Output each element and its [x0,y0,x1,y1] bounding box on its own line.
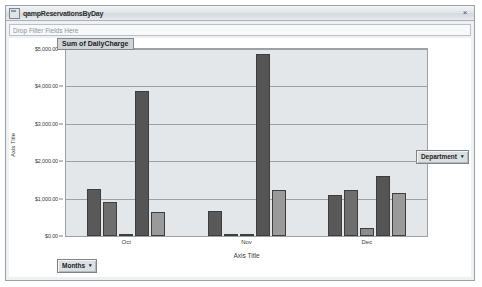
bar[interactable] [392,193,406,236]
bar[interactable] [272,190,286,236]
x-axis-tick-label: Oct [121,239,130,245]
x-axis-tick-label: Nov [241,239,252,245]
window-titlebar[interactable]: qampReservationsByDay × [6,6,474,21]
bars-layer [66,49,427,236]
y-axis-tick-labels: $5,000.00$4,000.00$3,000.00$2,000.00$1,0… [9,48,63,237]
y-axis-tick-mark [59,161,63,162]
field-button-department[interactable]: Department ▾ [416,150,469,164]
y-axis-tick-label: $0.00 [45,233,58,239]
bar[interactable] [87,189,101,236]
chevron-down-icon: ▾ [89,263,92,268]
y-axis-tick-label: $1,000.00 [35,196,58,202]
y-axis-tick-label: $5,000.00 [35,46,58,52]
plot-area [65,48,428,237]
y-axis-tick-mark [59,198,63,199]
bar[interactable] [119,234,133,236]
bar[interactable] [376,176,390,236]
window-title: qampReservationsByDay [23,10,103,17]
x-axis-tick-label: Dec [361,239,372,245]
y-axis-tick-label: $4,000.00 [35,83,58,89]
x-axis-title: Axis Title [65,252,428,259]
chevron-down-icon: ▾ [461,154,464,159]
bar[interactable] [256,54,270,237]
filter-drop-zone-label: Drop Filter Fields Here [10,27,78,34]
pivotchart-window: qampReservationsByDay × Drop Filter Fiel… [5,5,475,281]
series-title-box[interactable]: Sum of DailyCharge [57,38,134,50]
x-axis-tick-labels: OctNovDec [65,239,428,251]
bar[interactable] [103,202,117,236]
pivotchart-icon [9,8,20,19]
bar[interactable] [360,228,374,236]
close-icon[interactable]: × [460,8,470,17]
field-button-months-label: Months [62,262,85,269]
bar[interactable] [208,211,222,236]
bar[interactable] [328,195,342,236]
field-button-months[interactable]: Months ▾ [57,259,97,273]
bar[interactable] [135,91,149,236]
field-button-department-label: Department [421,153,457,160]
y-axis-tick-label: $2,000.00 [35,158,58,164]
y-axis-tick-label: $3,000.00 [35,121,58,127]
bar[interactable] [344,190,358,236]
filter-drop-zone[interactable]: Drop Filter Fields Here [9,24,471,36]
bar[interactable] [224,234,238,236]
bar[interactable] [240,234,254,236]
chart-region: Axis Title $5,000.00$4,000.00$3,000.00$2… [9,38,471,277]
y-axis-tick-mark [59,236,63,237]
bar[interactable] [151,212,165,236]
y-axis-tick-mark [59,123,63,124]
y-axis-tick-mark [59,86,63,87]
